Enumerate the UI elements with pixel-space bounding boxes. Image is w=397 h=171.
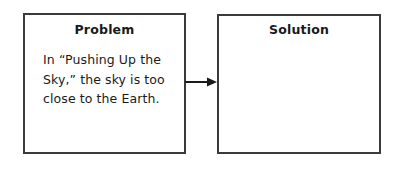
solution-box: Solution	[217, 14, 381, 154]
right-arrow-icon	[185, 76, 218, 88]
problem-box: Problem In “Pushing Up the Sky,” the sky…	[23, 13, 186, 154]
problem-title: Problem	[25, 22, 184, 37]
solution-title: Solution	[219, 22, 379, 37]
problem-text: In “Pushing Up the Sky,” the sky is too …	[43, 50, 176, 109]
arrow-head	[207, 78, 217, 87]
